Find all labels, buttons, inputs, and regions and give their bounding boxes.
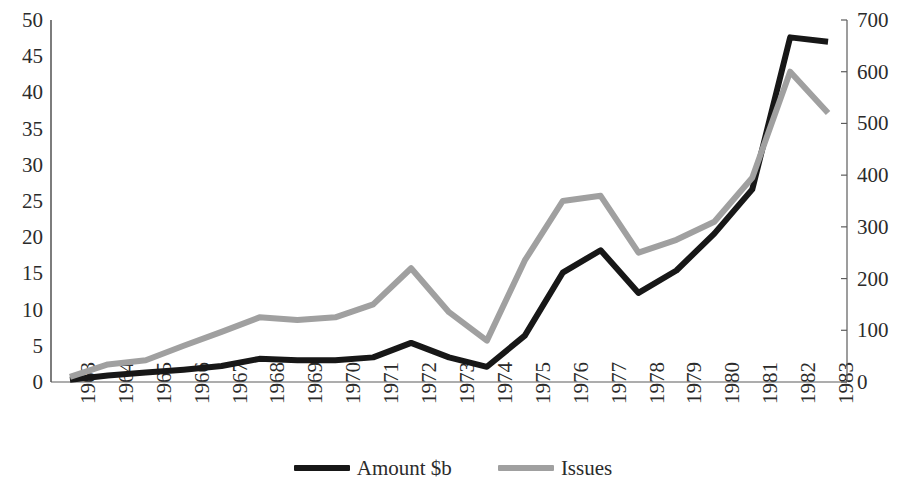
data-series: [70, 37, 828, 379]
series-line-issues: [70, 72, 828, 377]
plot-area: [0, 0, 906, 481]
chart-container: 05101520253035404550 0100200300400500600…: [0, 0, 906, 481]
axis-lines: [51, 20, 847, 382]
legend-swatch-amount: [294, 465, 350, 471]
legend-entry-amount: Amount $b: [294, 458, 452, 479]
legend-label-issues: Issues: [561, 458, 612, 479]
chart-legend: Amount $b Issues: [0, 455, 906, 481]
legend-entry-issues: Issues: [498, 458, 612, 479]
legend-swatch-issues: [498, 465, 554, 471]
series-line-amount-b: [70, 37, 828, 379]
legend-label-amount: Amount $b: [357, 458, 452, 479]
